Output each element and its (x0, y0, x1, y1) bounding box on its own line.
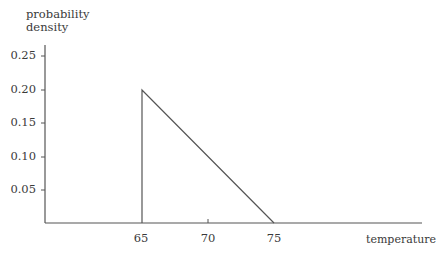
x-tick-label: 65 (126, 231, 156, 245)
plot-area (0, 0, 437, 256)
x-tick-label: 75 (259, 231, 289, 245)
density-line (142, 90, 274, 223)
x-axis-label: temperature (366, 233, 436, 246)
y-tick-label: 0.20 (0, 82, 36, 96)
y-tick-label: 0.15 (0, 115, 36, 129)
y-tick-label: 0.25 (0, 48, 36, 62)
probability-density-chart: probability density 0.25 0.20 0.15 0.10 … (0, 0, 437, 256)
y-tick-label: 0.05 (0, 182, 36, 196)
y-tick-label: 0.10 (0, 149, 36, 163)
x-tick-label: 70 (193, 231, 223, 245)
